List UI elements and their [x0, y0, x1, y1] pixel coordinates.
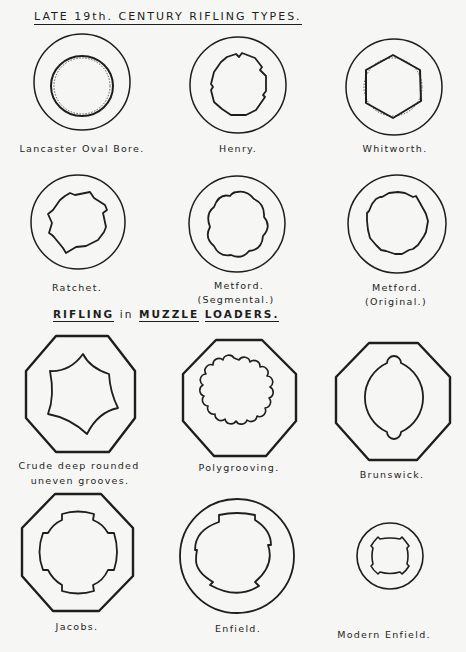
metford-original-diagram [348, 175, 446, 273]
label-metford-segmental: Metford. [214, 279, 264, 293]
label-modern-enfield: Modern Enfield. [337, 628, 431, 642]
label-crude: Crude deep rounded [18, 459, 139, 473]
sublabel-metford-original: (Original.) [365, 295, 427, 309]
henry-diagram [190, 37, 286, 133]
brunswick-diagram [336, 343, 450, 460]
lancaster-oval-bore-diagram [34, 34, 130, 130]
metford-segmental-diagram [189, 176, 285, 272]
label-polygrooving: Polygrooving. [198, 461, 279, 475]
label-metford-original: Metford. [372, 281, 422, 295]
crude-grooves-diagram [26, 336, 135, 452]
rifling-diagrams [0, 0, 466, 652]
label-ratchet: Ratchet. [52, 281, 102, 295]
sublabel-crude: uneven grooves. [31, 474, 130, 488]
polygrooving-diagram [183, 340, 296, 456]
label-lancaster: Lancaster Oval Bore. [19, 142, 144, 156]
sublabel-metford-segmental: (Segmental.) [197, 293, 274, 307]
modern-enfield-diagram [357, 523, 423, 589]
enfield-diagram [180, 499, 294, 613]
label-enfield: Enfield. [215, 622, 261, 636]
jacobs-diagram [22, 494, 133, 611]
ratchet-diagram [31, 175, 125, 269]
label-whitworth: Whitworth. [362, 142, 427, 156]
polygroove-scallops [200, 355, 273, 424]
label-brunswick: Brunswick. [360, 468, 425, 482]
label-jacobs: Jacobs. [56, 620, 99, 634]
label-henry: Henry. [219, 142, 257, 156]
whitworth-diagram [346, 39, 442, 135]
